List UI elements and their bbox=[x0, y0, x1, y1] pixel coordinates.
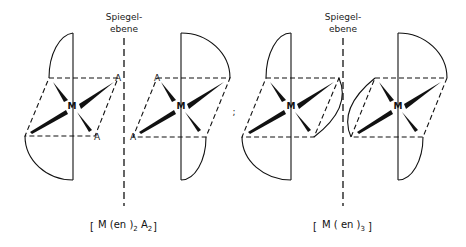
metal-label: M bbox=[394, 101, 403, 111]
ligand-label: A bbox=[154, 73, 161, 83]
formula-sub: 2 bbox=[148, 225, 152, 233]
formula-left: [ M (en )2 A2 ] bbox=[90, 219, 157, 233]
metal-label: M bbox=[68, 101, 77, 111]
formula-sub: 3 bbox=[360, 225, 364, 233]
metal-label: M bbox=[287, 101, 296, 111]
mirror-label-line2: ebene bbox=[329, 24, 357, 34]
mirror-label-line1: Spiegel- bbox=[106, 12, 142, 22]
formula-right-text: M ( en )3 bbox=[322, 219, 365, 233]
formula-right: [ M ( en )3 ] bbox=[313, 219, 372, 233]
bracket-open: [ bbox=[90, 221, 94, 232]
ligand-label: A bbox=[115, 73, 122, 83]
formula-left-text: M (en )2 A2 bbox=[98, 219, 152, 233]
bracket-close: ] bbox=[368, 221, 372, 232]
ligand-label: A bbox=[130, 132, 137, 142]
separator: ; bbox=[232, 107, 235, 117]
bracket-open: [ bbox=[313, 221, 317, 232]
bracket-close: ] bbox=[153, 221, 157, 232]
formula-main: M (en ) bbox=[98, 219, 133, 230]
formula-main: M ( en ) bbox=[322, 219, 361, 230]
formula-mid: A bbox=[138, 219, 148, 230]
mirror-label-line2: ebene bbox=[110, 24, 138, 34]
mirror-plane-left: Spiegel- ebene bbox=[106, 12, 142, 206]
enantiomer-diagram: Spiegel- ebene Spiegel- ebene M A A M A bbox=[0, 0, 466, 247]
mirror-label-line1: Spiegel- bbox=[325, 12, 361, 22]
metal-label: M bbox=[177, 101, 186, 111]
mirror-plane-right: Spiegel- ebene bbox=[325, 12, 361, 206]
ligand-label: A bbox=[94, 132, 101, 142]
